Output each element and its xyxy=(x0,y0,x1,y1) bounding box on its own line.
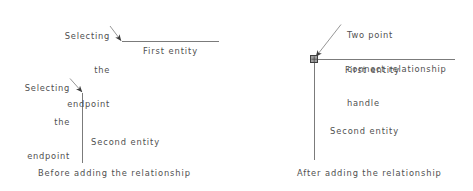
after-handle-leader xyxy=(316,25,341,57)
after-second-entity-label: Second entity xyxy=(330,126,399,136)
before-first-entity-leader xyxy=(110,26,121,41)
after-panel-caption: After adding the relationship xyxy=(297,168,442,178)
before-panel-caption: Before adding the relationship xyxy=(38,168,191,178)
after-first-entity-label: First entity xyxy=(345,65,400,75)
annotation-line-3: handle xyxy=(347,98,473,109)
annotation-line-3: endpoint xyxy=(0,151,70,162)
before-second-entity-label: Second entity xyxy=(91,137,160,147)
before-first-entity-label: First entity xyxy=(143,46,198,56)
before-second-entity-annotation: Selecting the endpoint xyxy=(0,61,70,184)
diagram-canvas: Selecting the endpoint First entity Sele… xyxy=(0,0,473,191)
annotation-line-1: Selecting xyxy=(0,83,70,94)
annotation-line-2: the xyxy=(0,117,70,128)
annotation-line-1: Two point xyxy=(347,30,473,41)
annotation-line-1: Selecting xyxy=(34,31,110,42)
